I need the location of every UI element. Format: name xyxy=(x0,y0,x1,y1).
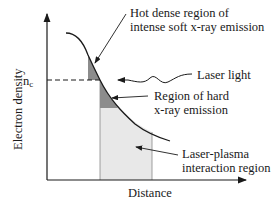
interaction-label-line1: Laser-plasma xyxy=(182,147,250,161)
hot-dense-label-line1: Hot dense region of xyxy=(130,6,230,20)
y-axis-label: Electron density xyxy=(11,68,25,150)
laser-light-arrow xyxy=(118,74,192,83)
plasma-density-diagram: nc Electron density Distance Hot dense r… xyxy=(0,0,276,202)
interaction-region xyxy=(100,108,152,180)
laser-light-label: Laser light xyxy=(197,68,251,82)
hard-xray-leader xyxy=(112,96,148,98)
hot-dense-leader xyxy=(95,14,126,63)
interaction-label-line2: interaction region xyxy=(182,161,271,175)
x-axis-label: Distance xyxy=(128,186,172,200)
hard-xray-label-line1: Region of hard xyxy=(154,89,230,103)
hot-dense-label-line2: intense soft x-ray emission xyxy=(130,20,265,34)
hard-xray-label-line2: x-ray emission xyxy=(154,103,229,117)
